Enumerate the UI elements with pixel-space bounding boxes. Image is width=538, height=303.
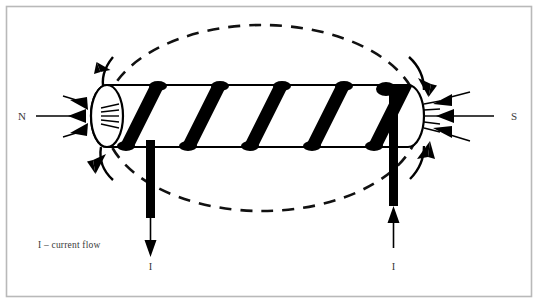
right-lead-hook [376, 82, 396, 96]
north-pole-label: N [18, 110, 26, 122]
south-pole-label: S [511, 110, 517, 122]
right-current-label: I [392, 261, 396, 272]
solenoid-diagram-figure: N [0, 0, 538, 303]
solenoid-body [91, 80, 424, 152]
legend-caption: I – current flow [38, 240, 101, 250]
left-lead-wire [146, 140, 155, 218]
figure-border [7, 7, 532, 297]
left-current-label: I [149, 261, 153, 272]
diagram-canvas: N [0, 0, 538, 303]
right-lead-stem [389, 86, 398, 206]
